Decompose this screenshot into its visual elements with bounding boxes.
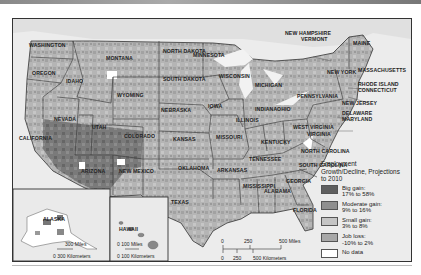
state-label: NORTH CAROLINA <box>301 149 350 155</box>
top-decorative-strip <box>0 0 421 4</box>
callout-label: VERMONT <box>301 37 328 43</box>
legend-item: No data <box>321 249 401 259</box>
state-label: CALIFORNIA <box>19 136 52 142</box>
state-label: NEVADA <box>54 117 76 123</box>
alaska-scale-miles: 300 Miles <box>65 241 86 247</box>
state-label: VIRGINIA <box>307 132 331 138</box>
state-label: KENTUCKY <box>261 140 291 146</box>
state-label: GEORGIA <box>286 179 311 185</box>
state-label: UTAH <box>92 125 106 131</box>
legend-item: Small gain:3% to 8% <box>321 217 401 231</box>
state-label: IDAHO <box>66 79 83 85</box>
legend-item: Moderate gain:9% to 16% <box>321 201 401 215</box>
state-label: IOWA <box>208 104 222 110</box>
state-label: OKLAHOMA <box>178 166 209 172</box>
callout-label: MARYLAND <box>342 117 372 123</box>
state-label: OREGON <box>32 71 56 77</box>
legend-label: Moderate gain:9% to 16% <box>342 201 382 215</box>
state-label: ILLINOIS <box>236 118 259 124</box>
state-label: FLORIDA <box>293 208 317 214</box>
callout-label: MASSACHUSETTS <box>358 68 406 74</box>
map-legend: Employment Growth/Decline, Projections t… <box>321 160 401 261</box>
state-label: TEXAS <box>171 200 189 206</box>
legend-item: Big gain:17% to 58% <box>321 185 401 199</box>
state-label: SOUTH DAKOTA <box>163 77 206 83</box>
scale-miles-250: 250 <box>244 238 252 244</box>
state-label: WYOMING <box>117 93 144 99</box>
state-label: ARKANSAS <box>217 168 247 174</box>
state-label: ARIZONA <box>81 169 105 175</box>
state-label: ALABAMA <box>264 189 291 195</box>
hawaii-label: HAWAII <box>119 227 138 233</box>
legend-item: Job loss:-10% to 2% <box>321 233 401 247</box>
state-label: WASHINGTON <box>29 43 66 49</box>
scale-km-0: 0 <box>221 255 224 261</box>
state-label: MISSOURI <box>216 135 242 141</box>
scale-miles-0: 0 <box>221 238 224 244</box>
legend-swatch <box>321 185 338 194</box>
alaska-label: ALASKA <box>43 217 65 223</box>
state-label: TENNESSEE <box>249 157 281 163</box>
legend-swatch <box>321 217 338 226</box>
state-label: MINNESOTA <box>193 53 225 59</box>
state-label: MAINE <box>353 41 370 47</box>
callout-label: NEW JERSEY <box>342 101 377 107</box>
state-label: COLORADO <box>124 134 155 140</box>
legend-swatch <box>321 201 338 210</box>
bottom-divider <box>12 265 412 266</box>
legend-swatch <box>321 233 338 242</box>
hawaii-scale-miles: 0 100 Miles <box>117 241 143 247</box>
state-label: INDIANA <box>255 107 277 113</box>
state-label: MICHIGAN <box>255 83 282 89</box>
state-label: NEW YORK <box>327 70 356 76</box>
legend-label: Job loss:-10% to 2% <box>342 233 373 247</box>
legend-label: Small gain:3% to 8% <box>342 217 372 231</box>
scale-km-250: 250 <box>233 255 241 261</box>
state-label: OHIO <box>277 107 291 113</box>
state-label: NEW MEXICO <box>119 169 154 175</box>
callout-label: CONNECTICUT <box>358 88 397 94</box>
state-label: PENNSYLVANIA <box>297 94 338 100</box>
legend-items: Big gain:17% to 58%Moderate gain:9% to 1… <box>321 185 401 259</box>
legend-swatch <box>321 249 338 258</box>
legend-title: Employment Growth/Decline, Projections t… <box>321 160 401 183</box>
state-label: NEBRASKA <box>161 108 191 114</box>
hawaii-scale-km: 0 100 Kilometers <box>117 253 155 259</box>
alaska-scale-km: 0 300 Kilometers <box>53 253 91 259</box>
state-label: KANSAS <box>173 137 196 143</box>
state-label: MONTANA <box>106 56 133 62</box>
legend-label: Big gain:17% to 58% <box>342 185 374 199</box>
scale-miles-500: 500 Miles <box>279 238 300 244</box>
state-label: WISCONSIN <box>219 74 250 80</box>
state-label: WEST VIRGINIA <box>293 125 334 131</box>
scale-km-500: 500 Kilometers <box>253 255 286 261</box>
legend-label: No data <box>342 249 363 256</box>
